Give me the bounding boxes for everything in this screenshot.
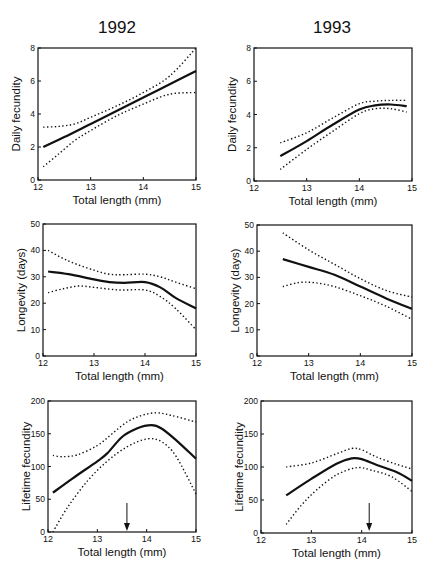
confidence-interval-line <box>286 468 412 525</box>
y-tick-label: 50 <box>36 494 46 504</box>
x-axis-label: Total length (mm) <box>78 546 167 558</box>
y-tick-label: 4 <box>246 110 251 120</box>
y-tick-label: 100 <box>244 462 258 472</box>
y-axis-label: Daily fecundity <box>10 76 22 151</box>
x-tick-label: 13 <box>306 535 316 545</box>
confidence-interval-line <box>43 93 196 167</box>
y-axis-label: Daily fecundity <box>226 77 238 152</box>
y-tick-label: 30 <box>245 272 255 282</box>
fitted-line <box>53 425 196 493</box>
plot-frame <box>261 401 412 533</box>
y-tick-label: 8 <box>30 43 35 53</box>
x-tick-label: 15 <box>191 358 201 368</box>
panel-daily-fecundity-1993: 1213141502468Total length (mm)Daily fecu… <box>226 43 417 207</box>
y-tick-label: 0 <box>30 175 35 185</box>
y-tick-label: 10 <box>245 325 255 335</box>
y-tick-label: 200 <box>244 396 258 406</box>
x-tick-label: 15 <box>407 183 417 193</box>
x-tick-label: 15 <box>407 535 417 545</box>
x-axis-label: Total length (mm) <box>73 194 162 206</box>
y-tick-label: 6 <box>30 76 35 86</box>
y-tick-label: 50 <box>249 495 259 505</box>
fitted-line <box>43 71 196 147</box>
y-tick-label: 4 <box>30 109 35 119</box>
plot-frame <box>38 48 196 180</box>
x-tick-label: 13 <box>302 183 312 193</box>
y-tick-label: 0 <box>35 351 40 361</box>
panel-lifetime-fecundity-1992: 12131415050100150200Total length (mm)Lif… <box>20 396 201 558</box>
x-axis-label: Total length (mm) <box>292 547 381 559</box>
x-tick-label: 14 <box>354 183 364 193</box>
x-tick-label: 15 <box>407 358 417 368</box>
y-tick-label: 40 <box>245 246 255 256</box>
panel-longevity-1993: 1213141501020304050Total length (mm)Long… <box>229 220 417 382</box>
x-tick-label: 14 <box>357 535 367 545</box>
y-axis-label: Lifetime fecundity <box>20 422 32 512</box>
fitted-line <box>283 259 412 309</box>
x-tick-label: 13 <box>304 358 314 368</box>
y-tick-label: 100 <box>31 462 45 472</box>
y-tick-label: 0 <box>253 528 258 538</box>
y-tick-label: 8 <box>246 43 251 53</box>
y-tick-label: 40 <box>31 245 41 255</box>
plot-frame <box>257 225 412 356</box>
plot-frame <box>48 401 196 532</box>
x-axis-label: Total length (mm) <box>289 195 378 207</box>
y-tick-label: 20 <box>245 299 255 309</box>
x-axis-label: Total length (mm) <box>75 370 164 382</box>
y-tick-label: 30 <box>31 272 41 282</box>
plot-frame <box>254 48 412 181</box>
y-tick-label: 6 <box>246 76 251 86</box>
fitted-line <box>280 104 406 156</box>
x-tick-label: 14 <box>355 358 365 368</box>
panel-lifetime-fecundity-1993: 12131415050100150200Total length (mm)Lif… <box>233 396 417 559</box>
y-tick-label: 2 <box>246 143 251 153</box>
x-tick-label: 14 <box>140 358 150 368</box>
arrow-icon <box>366 503 372 531</box>
y-tick-label: 200 <box>31 396 45 406</box>
arrow-icon <box>124 503 130 531</box>
y-tick-label: 0 <box>40 527 45 537</box>
panel-longevity-1992: 1213141501020304050Total length (mm)Long… <box>15 219 201 382</box>
y-tick-label: 150 <box>244 429 258 439</box>
x-tick-label: 13 <box>89 358 99 368</box>
figure-canvas: 1213141502468Total length (mm)Daily fecu… <box>0 0 434 572</box>
x-tick-label: 15 <box>191 182 201 192</box>
y-tick-label: 2 <box>30 142 35 152</box>
x-tick-label: 14 <box>142 534 152 544</box>
y-axis-label: Lifetime fecundity <box>233 422 245 512</box>
y-tick-label: 20 <box>31 298 41 308</box>
y-tick-label: 0 <box>249 351 254 361</box>
confidence-interval-line <box>43 48 196 127</box>
y-tick-label: 150 <box>31 429 45 439</box>
x-axis-label: Total length (mm) <box>290 370 379 382</box>
y-axis-label: Longevity (days) <box>15 248 27 333</box>
confidence-interval-line <box>48 286 196 330</box>
x-tick-label: 13 <box>86 182 96 192</box>
x-tick-label: 13 <box>92 534 102 544</box>
y-tick-label: 0 <box>246 176 251 186</box>
x-tick-label: 15 <box>191 534 201 544</box>
y-axis-label: Longevity (days) <box>229 248 241 333</box>
y-tick-label: 50 <box>245 220 255 230</box>
confidence-interval-line <box>280 100 406 142</box>
y-tick-label: 50 <box>31 219 41 229</box>
y-tick-label: 10 <box>31 325 41 335</box>
fitted-line <box>48 272 196 309</box>
confidence-interval-line <box>53 439 196 532</box>
x-tick-label: 14 <box>138 182 148 192</box>
panel-daily-fecundity-1992: 1213141502468Total length (mm)Daily fecu… <box>10 43 201 206</box>
